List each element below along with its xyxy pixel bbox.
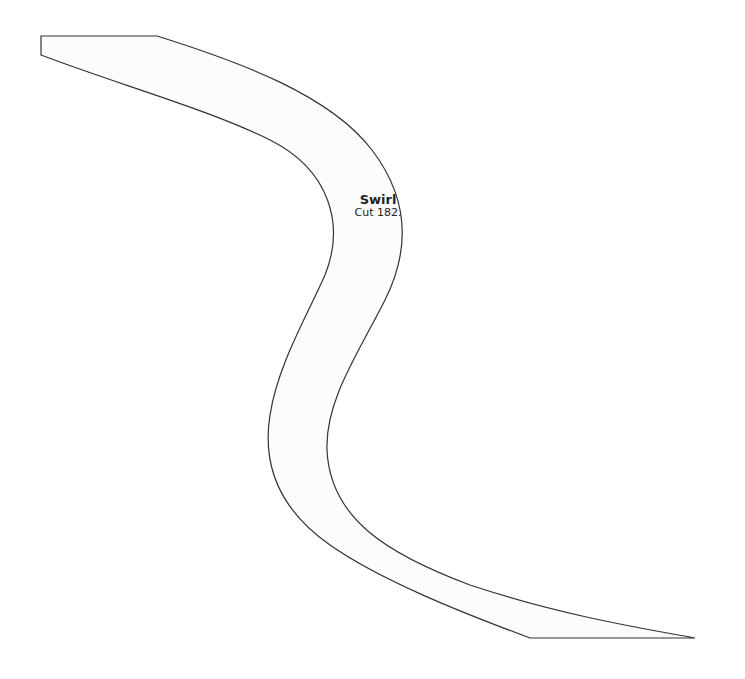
swirl-pattern-piece <box>0 0 745 679</box>
piece-label: Swirl Cut 182. <box>348 193 408 219</box>
piece-name: Swirl <box>348 193 408 206</box>
piece-cut-count: Cut 182. <box>348 206 408 219</box>
swirl-outline <box>41 36 695 638</box>
